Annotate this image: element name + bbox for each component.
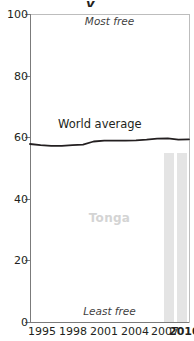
annotation-least-free: Least free: [30, 305, 189, 317]
freedom-index-chart: y 100 80 60 40 20 0 Tonga World average …: [0, 0, 194, 341]
series-label-world-average: World average: [58, 118, 142, 131]
x-tick-label-2010: 2010: [169, 326, 194, 338]
world-average-line: [0, 0, 194, 341]
annotation-most-free: Most free: [30, 15, 189, 27]
